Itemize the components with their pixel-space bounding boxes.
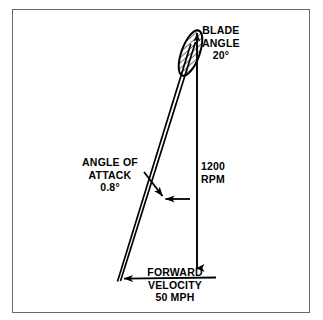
blade-angle-label: BLADE ANGLE 20° [202, 24, 240, 62]
rotation-axis-arrow [194, 33, 201, 268]
forward-velocity-line-1: FORWARD [128, 266, 222, 279]
figure-canvas: BLADE ANGLE 20° ANGLE OF ATTACK 0.8° 120… [0, 0, 323, 320]
forward-velocity-value: 50 MPH [128, 291, 222, 304]
forward-velocity-label: FORWARD VELOCITY 50 MPH [128, 266, 222, 304]
angle-of-attack-line-1: ANGLE OF [62, 156, 158, 169]
rpm-unit: RPM [201, 173, 225, 186]
angle-of-attack-line-2: ATTACK [62, 169, 158, 182]
blade-angle-value: 20° [202, 49, 240, 62]
rpm-value: 1200 [201, 160, 225, 173]
forward-velocity-line-2: VELOCITY [128, 279, 222, 292]
angle-of-attack-value: 0.8° [62, 181, 158, 194]
blade-angle-line-1: BLADE [202, 24, 240, 37]
angle-of-attack-label: ANGLE OF ATTACK 0.8° [62, 156, 158, 194]
blade-angle-line-2: ANGLE [202, 37, 240, 50]
rotation-speed-label: 1200 RPM [201, 160, 225, 185]
